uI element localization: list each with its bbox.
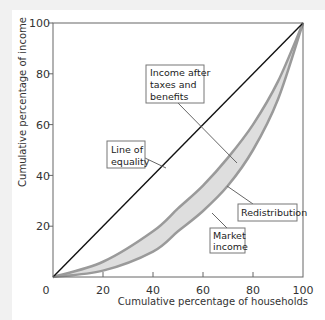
line-of-equality xyxy=(53,23,303,277)
callout-after-tax: Income after taxes and benefits xyxy=(146,65,211,103)
callout-after-tax-line2: taxes and xyxy=(150,79,197,90)
x-axis-title: Cumulative percentage of households xyxy=(118,296,308,307)
callout-redistribution-label: Redistribution xyxy=(241,207,307,218)
y-axis-title: Cumulative percentage of income xyxy=(17,17,28,187)
y-tick-100: 100 xyxy=(29,17,50,30)
callout-market: Market income xyxy=(210,228,248,253)
y-tick-40: 40 xyxy=(36,170,50,183)
y-tick-80: 80 xyxy=(36,68,50,81)
callout-equality-line1: Line of xyxy=(111,144,144,155)
callout-market-line1: Market xyxy=(213,230,246,241)
leader-redistribution xyxy=(227,186,253,204)
lorenz-chart: 0 20 40 60 80 100 20 40 60 80 100 Cumula… xyxy=(0,0,325,320)
callout-after-tax-line1: Income after xyxy=(150,67,211,78)
callout-equality-line2: equality xyxy=(111,156,150,167)
leader-market xyxy=(212,213,227,228)
callout-market-line2: income xyxy=(213,241,248,252)
x-tick-20: 20 xyxy=(96,284,110,297)
x-tick-0: 0 xyxy=(43,284,50,297)
y-tick-20: 20 xyxy=(36,220,50,233)
callout-equality: Line of equality xyxy=(107,141,150,168)
callout-redistribution: Redistribution xyxy=(238,204,307,221)
y-tick-labels: 20 40 60 80 100 xyxy=(29,17,50,233)
callout-after-tax-line3: benefits xyxy=(150,91,188,102)
leader-after-tax xyxy=(178,103,237,163)
y-tick-60: 60 xyxy=(36,119,50,132)
